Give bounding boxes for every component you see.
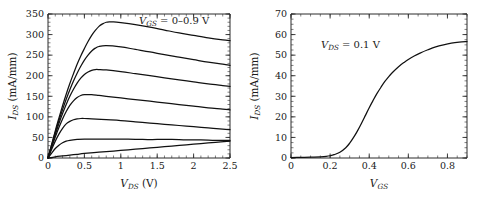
right-plot-frame <box>291 14 467 158</box>
data-curve <box>48 118 230 158</box>
y-tick-label: 60 <box>275 29 287 40</box>
data-curve <box>291 42 467 158</box>
right-x-axis-title: VGS <box>370 177 388 191</box>
left-x-axis-title: VDS (V) <box>120 177 157 191</box>
chart-panel-transfer-characteristic: 00.20.40.60.8 010203040506070 VGS IDS (m… <box>239 0 478 215</box>
data-curve <box>48 46 230 158</box>
y-tick-label: 30 <box>275 91 287 102</box>
right-y-axis-title: IDS (mA/mm) <box>248 52 262 120</box>
y-tick-label: 70 <box>275 8 287 19</box>
x-tick-label: 2 <box>191 160 197 171</box>
output-characteristics-svg: 00.511.522.5 050100150200250300350 VDS (… <box>0 0 239 215</box>
left-y-axis-title: IDS (mA/mm) <box>6 52 20 120</box>
axis-title-text: IDS (mA/mm) <box>6 52 20 120</box>
y-tick-label: 300 <box>26 29 44 40</box>
right-x-tick-labels: 00.20.40.60.8 <box>288 160 455 171</box>
y-tick-label: 10 <box>275 132 287 143</box>
data-curve <box>48 22 230 158</box>
x-tick-label: 0 <box>288 160 294 171</box>
x-tick-label: 0 <box>45 160 51 171</box>
left-annotation-vgs-range: VGS = 0–0.9 V <box>139 15 210 28</box>
y-tick-label: 150 <box>26 91 44 102</box>
y-tick-label: 0 <box>38 152 44 163</box>
left-x-tick-labels: 00.511.522.5 <box>45 160 238 171</box>
left-curve-group <box>48 22 230 158</box>
y-tick-label: 250 <box>26 49 44 60</box>
y-tick-label: 100 <box>26 111 44 122</box>
y-tick-label: 0 <box>281 152 287 163</box>
x-tick-label: 1.5 <box>150 160 165 171</box>
y-tick-label: 50 <box>32 132 44 143</box>
right-y-tick-labels: 010203040506070 <box>275 8 287 163</box>
annotation-text: VGS = 0–0.9 V <box>139 15 210 28</box>
right-curve-group <box>291 42 467 158</box>
figure-container: 00.511.522.5 050100150200250300350 VDS (… <box>0 0 478 215</box>
y-tick-label: 50 <box>275 49 287 60</box>
y-tick-label: 350 <box>26 8 44 19</box>
axis-title-text: IDS (mA/mm) <box>248 52 262 120</box>
right-annotation-vds: VDS = 0.1 V <box>321 39 381 52</box>
y-tick-label: 40 <box>275 70 287 81</box>
right-minor-ticks <box>291 14 467 158</box>
x-tick-label: 0.6 <box>401 160 416 171</box>
x-tick-label: 0.8 <box>440 160 455 171</box>
annotation-text: VDS = 0.1 V <box>321 39 381 52</box>
left-y-tick-labels: 050100150200250300350 <box>26 8 44 163</box>
y-tick-label: 200 <box>26 70 44 81</box>
data-curve <box>48 69 230 158</box>
x-tick-label: 0.4 <box>362 160 377 171</box>
transfer-characteristic-svg: 00.20.40.60.8 010203040506070 VGS IDS (m… <box>239 0 478 215</box>
x-tick-label: 1 <box>118 160 124 171</box>
x-tick-label: 0.2 <box>323 160 338 171</box>
x-tick-label: 2.5 <box>222 160 237 171</box>
data-curve <box>48 141 230 158</box>
y-tick-label: 20 <box>275 111 287 122</box>
right-major-ticks <box>291 14 467 158</box>
x-tick-label: 0.5 <box>77 160 92 171</box>
chart-panel-output-characteristics: 00.511.522.5 050100150200250300350 VDS (… <box>0 0 239 215</box>
